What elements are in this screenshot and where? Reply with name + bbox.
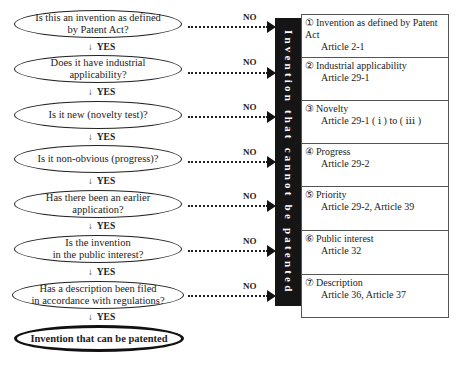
question-line: Is the invention — [65, 237, 130, 248]
criterion-article: Article 29-1 — [305, 72, 448, 84]
yes-connector: ↓YES — [88, 87, 115, 97]
criterion-box: ①Invention as defined by Patent Act Arti… — [302, 15, 448, 58]
criterion-number: ⑥ — [305, 233, 314, 244]
criterion-title: Novelty — [316, 103, 348, 114]
criterion-title: Invention as defined by Patent Act — [305, 17, 438, 40]
final-result-label: Invention that can be patented — [30, 333, 167, 345]
no-connector — [188, 26, 268, 28]
yes-connector: ↓YES — [88, 267, 115, 277]
down-arrow-icon: ↓ — [88, 221, 93, 231]
criterion-number: ③ — [305, 103, 314, 114]
criterion-title: Public interest — [316, 233, 374, 244]
question-line: by Patent Act? — [67, 24, 128, 35]
question-earlier-application: Has there been an earlierapplication? — [14, 190, 182, 218]
criterion-box: ⑦Description Article 36, Article 37 — [302, 275, 448, 318]
no-label: NO — [243, 12, 257, 22]
question-line: Has a description been filed — [39, 283, 156, 294]
rejection-bar: Invention that cannot be patented — [275, 18, 302, 306]
yes-label: YES — [97, 176, 115, 186]
down-arrow-icon: ↓ — [88, 87, 93, 97]
criterion-title: Industrial applicability — [316, 60, 407, 71]
yes-label: YES — [97, 267, 115, 277]
criterion-article: Article 29-1 ( ⅰ ) to ( ⅲ ) — [305, 115, 448, 127]
criterion-article: Article 29-2, Article 39 — [305, 201, 448, 213]
no-label: NO — [243, 57, 257, 67]
criterion-title: Description — [316, 277, 363, 288]
yes-connector: ↓YES — [88, 176, 115, 186]
criterion-box: ③Novelty Article 29-1 ( ⅰ ) to ( ⅲ ) — [302, 101, 448, 144]
question-line: Is it new (novelty test)? — [48, 109, 147, 120]
question-line: Is this an invention as defined — [35, 12, 161, 23]
down-arrow-icon: ↓ — [88, 42, 93, 52]
final-result-patentable: Invention that can be patented — [14, 325, 184, 352]
down-arrow-icon: ↓ — [88, 267, 93, 277]
yes-connector: ↓YES — [88, 42, 115, 52]
criterion-box: ⑥Public interest Article 32 — [302, 231, 448, 275]
question-line: in the public interest? — [53, 249, 144, 260]
question-line: applicability? — [69, 69, 126, 80]
criterion-box: ②Industrial applicability Article 29-1 — [302, 58, 448, 101]
criterion-title: Progress — [316, 146, 350, 157]
no-connector — [188, 72, 268, 74]
criterion-number: ⑦ — [305, 277, 314, 288]
down-arrow-icon: ↓ — [88, 132, 93, 142]
question-line: in accordance with regulations? — [31, 295, 164, 306]
criterion-number: ② — [305, 60, 314, 71]
question-line: Is it non-obvious (progress)? — [37, 153, 158, 164]
question-line: application? — [72, 204, 123, 215]
criterion-title: Priority — [316, 189, 347, 200]
question-line: Does it have industrial — [51, 57, 146, 68]
yes-connector: ↓YES — [88, 312, 115, 322]
criterion-number: ④ — [305, 146, 314, 157]
down-arrow-icon: ↓ — [88, 312, 93, 322]
down-arrow-icon: ↓ — [88, 176, 93, 186]
question-novelty: Is it new (novelty test)? — [14, 101, 182, 129]
question-non-obvious: Is it non-obvious (progress)? — [14, 145, 182, 173]
question-invention-definition: Is this an invention as definedby Patent… — [14, 10, 182, 38]
no-connector — [188, 205, 268, 207]
yes-label: YES — [97, 132, 115, 142]
criterion-box: ④Progress Article 29-2 — [302, 144, 448, 187]
yes-label: YES — [97, 87, 115, 97]
no-label: NO — [243, 102, 257, 112]
no-label: NO — [243, 147, 257, 157]
yes-label: YES — [97, 221, 115, 231]
criterion-box: ⑤Priority Article 29-2, Article 39 — [302, 187, 448, 231]
criterion-article: Article 32 — [305, 245, 448, 257]
yes-connector: ↓YES — [88, 132, 115, 142]
no-label: NO — [243, 191, 257, 201]
criterion-article: Article 29-2 — [305, 158, 448, 170]
criteria-list: ①Invention as defined by Patent Act Arti… — [301, 14, 449, 318]
yes-label: YES — [97, 312, 115, 322]
question-description-filed: Has a description been filedin accordanc… — [12, 281, 184, 309]
no-connector — [188, 250, 268, 252]
question-line: Has there been an earlier — [46, 192, 150, 203]
question-industrial-applicability: Does it have industrialapplicability? — [14, 55, 182, 83]
no-connector — [188, 295, 268, 297]
no-connector — [188, 161, 268, 163]
yes-label: YES — [97, 42, 115, 52]
question-public-interest: Is the inventionin the public interest? — [14, 235, 182, 263]
criterion-article: Article 36, Article 37 — [305, 289, 448, 301]
no-label: NO — [243, 281, 257, 291]
criterion-number: ⑤ — [305, 189, 314, 200]
rejection-bar-label: Invention that cannot be patented — [283, 30, 295, 295]
no-connector — [188, 116, 268, 118]
criterion-article: Article 2-1 — [305, 41, 448, 53]
yes-connector: ↓YES — [88, 221, 115, 231]
criterion-number: ① — [305, 17, 314, 28]
no-label: NO — [243, 236, 257, 246]
